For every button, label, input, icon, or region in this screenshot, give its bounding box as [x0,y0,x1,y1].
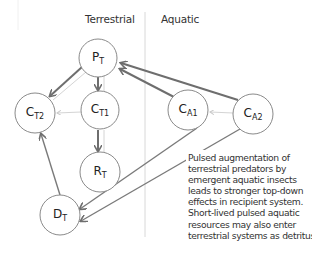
weak-link-ct2-pt [53,72,86,100]
section-label-terrestrial: Terrestrial [85,13,135,25]
node-label-rt: RT [80,164,120,183]
node-label-rt-base: R [93,164,101,178]
node-label-ct1-base: C [91,102,99,116]
weak-link-ct1-ct2 [57,112,81,113]
node-label-ca2-sub: A2 [252,113,263,122]
caption-line: terrestrial systems as detritus. [188,230,312,241]
node-label-dt-base: D [53,207,62,221]
node-label-ca2: CA2 [233,106,273,125]
node-label-ct2-base: C [26,105,34,119]
food-web-diagram: Terrestrial Aquatic PT CT2 CT1 RT DT CA1… [0,0,312,254]
caption-line: Short-lived pulsed aquatic [188,207,312,218]
caption-line: Pulsed augmentation of [188,152,312,163]
caption-line: leads to stronger top-down [188,185,312,196]
caption-line: terrestrial predators by [188,163,312,174]
caption-line: emergent aquatic insects [188,174,312,185]
node-label-dt-sub: T [62,214,67,223]
section-label-aquatic: Aquatic [161,13,199,25]
node-label-ct2: CT2 [15,105,55,124]
arrow-dt-ct2 [41,134,60,195]
node-label-ca2-base: C [244,106,252,120]
node-label-ct1: CT1 [80,102,120,121]
node-label-ca1-sub: A1 [187,109,198,118]
node-label-ca1: CA1 [168,102,208,121]
node-label-ct2-sub: T2 [34,112,44,121]
node-label-dt: DT [40,207,80,226]
node-label-ca1-base: C [179,102,187,116]
weak-link-ca2-ca1 [210,112,233,113]
strong-arrow-pt-ct2 [50,67,82,96]
caption-text-block: Pulsed augmentation of terrestrial preda… [186,150,312,241]
strong-arrow-ca1-pt [120,69,174,97]
caption-line: resources may also enter [188,219,312,230]
node-label-rt-sub: T [102,171,107,180]
caption-line: effects in recipient system. [188,196,312,207]
node-label-pt: PT [78,50,118,69]
node-label-pt-sub: T [99,57,104,66]
node-label-ct1-sub: T1 [99,109,109,118]
